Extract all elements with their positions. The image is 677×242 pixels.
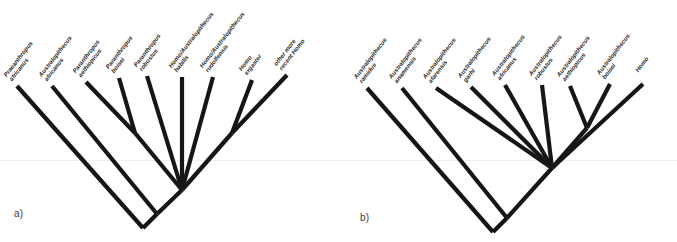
branch-internal-stem: [157, 190, 182, 214]
panel-b: b) Australopithecus ramidus Australopith…: [340, 0, 677, 242]
panel-a-tree: [0, 0, 340, 242]
branch-homo: [552, 84, 643, 168]
branch-root-stem: [143, 214, 157, 228]
panel-a: a) Praeanthropus africanus Australopithe…: [0, 0, 340, 242]
branch-australopithecus-afarensis: [436, 88, 552, 168]
branch-australopithecus-boisei: [587, 84, 610, 128]
branch-other-more-recent-homo: [232, 75, 287, 133]
branch-australopithecus-africanus: [52, 86, 157, 214]
branch-australopithecus-ramidus: [367, 88, 493, 232]
branch-paranthropus-robustus: [147, 76, 182, 190]
branch-root-stem: [493, 218, 507, 232]
branch-internal-stem: [507, 168, 552, 218]
panel-a-label: a): [14, 208, 23, 219]
cladogram-figure: a) Praeanthropus africanus Australopithe…: [0, 0, 677, 242]
branch-australopithecus-aethiopicus: [570, 86, 587, 128]
branch-praeanthropus-africanus: [17, 86, 143, 228]
panel-b-label: b): [360, 212, 369, 223]
